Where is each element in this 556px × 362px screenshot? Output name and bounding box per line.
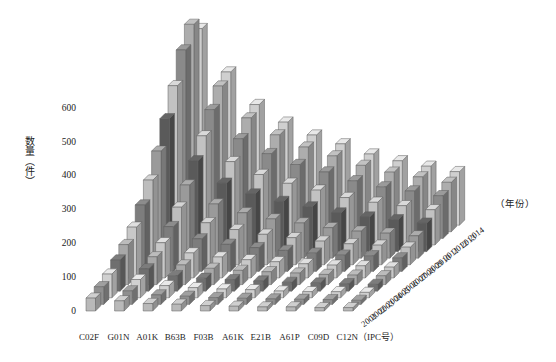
depth-axis-title: （年份） [495, 196, 535, 210]
bar-face [202, 234, 207, 272]
x-tick-label-A61P: A61P [279, 332, 300, 342]
bar-face [333, 222, 338, 258]
bar-face [443, 190, 448, 238]
bar-face [296, 232, 301, 264]
bar-face [115, 301, 125, 311]
bars-canvas [0, 0, 556, 362]
x-tick-label-E21B: E21B [251, 332, 272, 342]
x-tick-label-B63B: B63B [165, 332, 186, 342]
bar-face [435, 205, 440, 245]
x-tick-label-C09D: C09D [308, 332, 330, 342]
y-tick-label-400: 400 [42, 170, 76, 180]
bar-face [451, 177, 456, 232]
bar-face [258, 307, 268, 311]
y-tick-label-200: 200 [42, 238, 76, 248]
bar-face [460, 166, 465, 225]
bar-face [165, 238, 170, 278]
y-tick-label-300: 300 [42, 204, 76, 214]
chart-3d-bar: 数量（件） 0100200300400500600 C02FG01NA01KB6… [0, 0, 556, 362]
bar-face [315, 308, 325, 311]
bar-face [267, 229, 272, 265]
bar-face [286, 307, 296, 311]
x-tick-label-A61K: A61K [222, 332, 244, 342]
bar-face [200, 306, 210, 311]
bar-face [86, 298, 96, 311]
bar-face [343, 308, 353, 311]
bar-face [231, 239, 236, 271]
y-tick-label-0: 0 [42, 306, 76, 316]
x-tick-label-C02F: C02F [79, 332, 99, 342]
bar-face [361, 226, 366, 258]
bar-face [427, 218, 432, 252]
x-tick-label-G01N: G01N [108, 332, 130, 342]
bar-face [172, 304, 182, 311]
bar-face [120, 255, 125, 291]
x-tick-label-A01K: A01K [136, 332, 158, 342]
x-tick-label-C12N: C12N（IPC号） [336, 332, 399, 342]
y-tick-label-100: 100 [42, 272, 76, 282]
x-tick-label-F03B: F03B [193, 332, 213, 342]
y-tick-label-600: 600 [42, 103, 76, 113]
bar-face [143, 304, 153, 311]
y-tick-label-500: 500 [42, 137, 76, 147]
bar-face [157, 252, 162, 285]
bar-face [229, 306, 239, 311]
